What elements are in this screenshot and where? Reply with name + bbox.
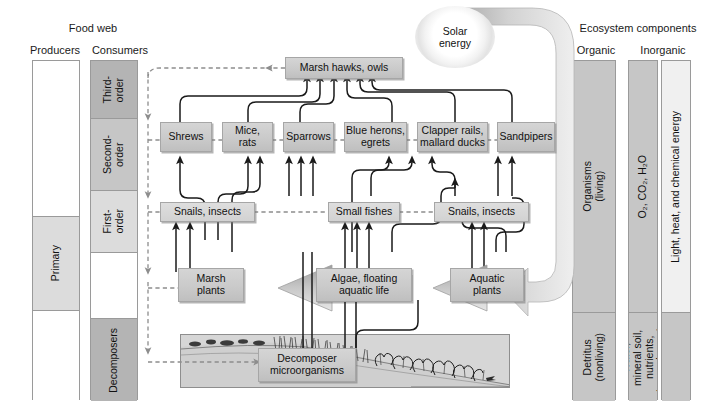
node-label: Decomposer microorganisms <box>270 353 344 377</box>
node-decomposer-microorganisms[interactable]: Decomposer microorganisms <box>258 348 356 382</box>
